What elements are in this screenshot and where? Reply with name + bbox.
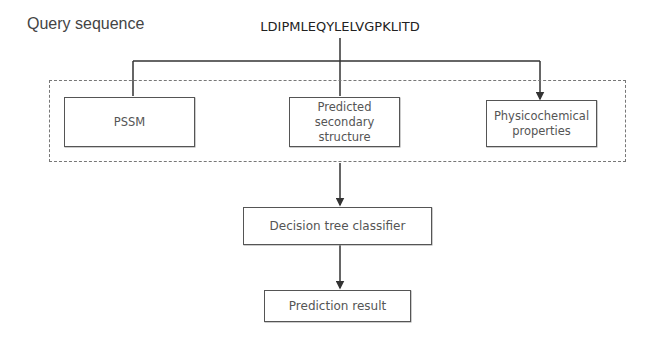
secondary-structure-box: Predicted secondary structure xyxy=(289,97,400,147)
classifier-label: Decision tree classifier xyxy=(270,219,406,234)
secondary-structure-label: Predicted secondary structure xyxy=(315,100,375,145)
prediction-result-box: Prediction result xyxy=(264,290,411,322)
classifier-box: Decision tree classifier xyxy=(243,207,432,245)
pssm-label: PSSM xyxy=(114,115,145,130)
physicochemical-box: Physicochemical properties xyxy=(486,100,597,147)
prediction-result-label: Prediction result xyxy=(289,299,386,314)
physicochemical-label: Physicochemical properties xyxy=(494,109,589,139)
pssm-box: PSSM xyxy=(64,97,195,147)
